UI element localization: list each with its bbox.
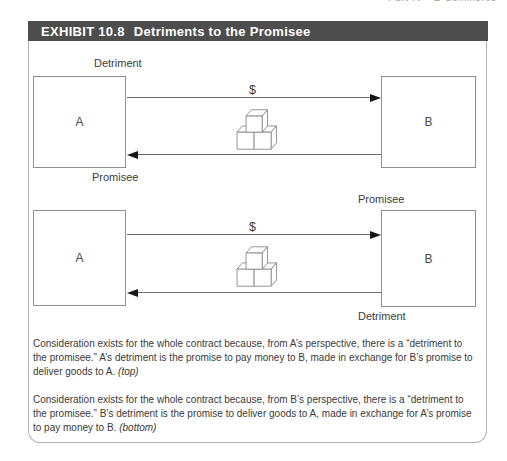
money-symbol-2: $ [249, 220, 256, 234]
exhibit-header: EXHIBIT 10.8 Detriments to the Promisee [28, 21, 488, 41]
goods-arrow-line [138, 154, 381, 155]
goods-arrowhead-icon-2 [127, 289, 138, 297]
goods-arrowhead-icon [127, 151, 138, 159]
caption-bottom-text: Consideration exists for the whole contr… [33, 394, 472, 433]
exhibit-title: Detriments to the Promisee [134, 24, 311, 39]
promisee-label-bottom-diagram: Promisee [358, 193, 404, 205]
money-symbol: $ [249, 83, 256, 97]
running-head-text: Part IV • E-Commerce [388, 0, 497, 3]
party-a-box-2: A [33, 210, 126, 306]
party-a-label-2: A [75, 251, 83, 265]
caption-top-note: (top) [118, 366, 139, 377]
money-arrowhead-icon [370, 94, 381, 102]
party-a-label: A [75, 115, 83, 129]
detriment-label-bottom-diagram: Detriment [358, 310, 406, 322]
textbook-page: Part IV • E-Commerce EXHIBIT 10.8 Detrim… [0, 0, 507, 461]
money-arrowhead-icon-2 [370, 231, 381, 239]
caption-top-text: Consideration exists for the whole contr… [33, 338, 473, 377]
promisee-label-top-diagram: Promisee [92, 171, 138, 183]
party-b-label-2: B [424, 252, 432, 266]
caption-bottom-note: (bottom) [119, 422, 156, 433]
party-a-box: A [33, 76, 126, 168]
money-arrow-line-2 [127, 234, 371, 235]
caption-bottom: Consideration exists for the whole contr… [33, 393, 477, 435]
goods-cubes-icon-2 [229, 244, 281, 289]
detriment-label-top-diagram: Detriment [94, 57, 142, 69]
exhibit-number: EXHIBIT 10.8 [41, 24, 125, 39]
caption-top: Consideration exists for the whole contr… [33, 337, 477, 379]
party-b-label: B [424, 115, 432, 129]
party-b-box: B [381, 76, 476, 168]
goods-arrow-line-2 [138, 292, 381, 293]
page-running-head-clipped: Part IV • E-Commerce [317, 0, 497, 4]
money-arrow-line [127, 97, 371, 98]
goods-cubes-icon [229, 107, 281, 152]
party-b-box-2: B [381, 210, 476, 307]
